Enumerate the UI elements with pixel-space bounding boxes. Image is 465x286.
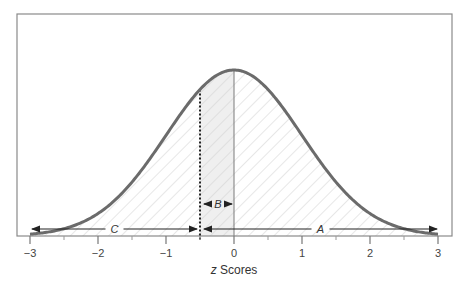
tick-label: 2 — [367, 247, 373, 259]
tick-label: 3 — [435, 247, 441, 259]
tick-label: −1 — [160, 247, 173, 259]
x-axis-title: z Scores — [210, 263, 258, 277]
region-a-label: A — [316, 223, 324, 235]
x-axis-ticks: −3−2−10123 — [24, 236, 441, 259]
region-c-label: C — [111, 223, 119, 235]
tick-label: −3 — [24, 247, 37, 259]
normal-distribution-chart: −3−2−10123 CAB z Scores — [0, 0, 465, 286]
tick-label: 0 — [231, 247, 237, 259]
region-b-label: B — [214, 198, 221, 210]
tick-label: 1 — [299, 247, 305, 259]
tick-label: −2 — [92, 247, 105, 259]
